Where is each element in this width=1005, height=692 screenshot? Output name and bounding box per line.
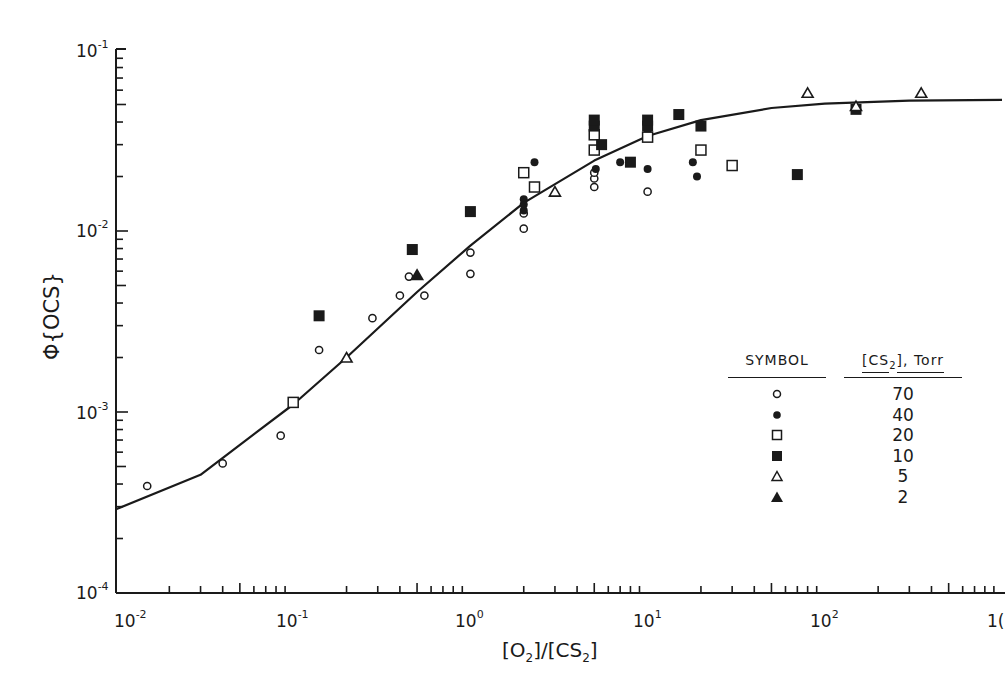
data-point-filled-circle — [689, 158, 697, 166]
legend: SYMBOL [CS2], Torr 70 40 20 10 5 2 — [728, 352, 962, 507]
y-tick-label-1e-3: 10-3 — [76, 402, 109, 423]
legend-header: SYMBOL [CS2], Torr — [728, 352, 962, 378]
data-point-open-square — [696, 145, 706, 155]
data-point-open-square — [519, 168, 529, 178]
data-point-open-circle — [467, 270, 474, 277]
data-point-filled-square — [314, 310, 325, 321]
data-point-open-circle — [219, 460, 226, 467]
data-point-filled-circle — [693, 173, 701, 181]
data-point-open-square — [288, 397, 298, 407]
data-point-open-circle — [369, 315, 376, 322]
data-point-filled-circle — [616, 158, 624, 166]
data-point-open-circle — [520, 225, 527, 232]
legend-row-20: 20 — [728, 425, 962, 446]
data-point-open-square — [727, 161, 737, 171]
filled-square-icon — [770, 449, 784, 463]
y-tick-label-1e-4: 10-4 — [76, 582, 109, 603]
axes — [116, 49, 1005, 593]
data-point-open-circle — [467, 249, 474, 256]
data-point-filled-square — [465, 206, 476, 217]
x-tick-label-1e3: 1( — [987, 610, 1004, 631]
x-tick-label-1e-1: 10-1 — [276, 610, 309, 631]
data-point-open-circle — [396, 292, 403, 299]
data-point-open-square — [643, 132, 653, 142]
y-axis-title: Φ{OCS} — [40, 272, 64, 360]
data-point-open-triangle — [916, 88, 927, 98]
legend-row-40: 40 — [728, 405, 962, 426]
legend-row-10: 10 — [728, 446, 962, 467]
x-tick-label-1e-2: 10-2 — [114, 610, 147, 631]
data-point-open-square — [529, 182, 539, 192]
filled-triangle-icon — [770, 490, 784, 504]
data-point-open-circle — [421, 292, 428, 299]
data-point-filled-square — [642, 115, 653, 126]
data-point-filled-circle — [520, 195, 528, 203]
data-point-open-circle — [644, 188, 651, 195]
legend-row-5: 5 — [728, 466, 962, 487]
data-point-filled-square — [596, 139, 607, 150]
open-circle-icon — [770, 387, 784, 401]
data-point-open-triangle — [802, 88, 813, 98]
data-point-filled-square — [673, 109, 684, 120]
legend-header-value: [CS2], Torr — [844, 352, 962, 378]
data-point-open-circle — [315, 346, 322, 353]
legend-header-symbol: SYMBOL — [728, 352, 826, 378]
data-point-open-triangle — [549, 187, 560, 197]
x-tick-label-1e0: 100 — [455, 610, 484, 631]
data-point-open-circle — [277, 432, 284, 439]
filled-circle-icon — [770, 408, 784, 422]
data-point-open-circle — [591, 183, 598, 190]
legend-row-2: 2 — [728, 487, 962, 508]
data-point-filled-square — [625, 157, 636, 168]
x-tick-label-1e1: 101 — [633, 610, 662, 631]
open-square-icon — [770, 428, 784, 442]
data-point-filled-square — [792, 169, 803, 180]
chart-plot-area — [0, 0, 1005, 692]
x-axis-title: [O2]/[CS2] — [502, 638, 598, 665]
data-point-filled-circle — [644, 165, 652, 173]
y-tick-label-1e-2: 10-2 — [76, 220, 109, 241]
data-point-filled-circle — [530, 158, 538, 166]
data-point-open-circle — [144, 482, 151, 489]
y-tick-label-1e-1: 10-1 — [76, 40, 109, 61]
data-point-filled-square — [407, 244, 418, 255]
data-point-filled-circle — [592, 165, 600, 173]
data-point-filled-square — [695, 121, 706, 132]
data-point-filled-square — [589, 115, 600, 126]
legend-row-70: 70 — [728, 384, 962, 405]
x-tick-label-1e2: 102 — [810, 610, 839, 631]
open-triangle-icon — [770, 469, 784, 483]
